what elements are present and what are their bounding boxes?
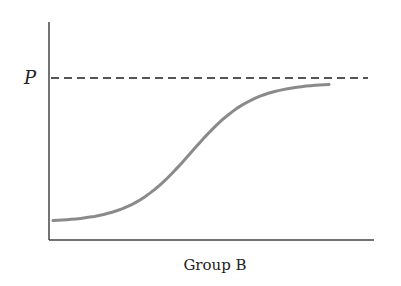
x-axis-label: Group B — [183, 256, 246, 274]
p-label: P — [23, 67, 37, 88]
sigmoid-chart: P Group B — [0, 0, 401, 286]
sigmoid-curve — [53, 85, 329, 221]
